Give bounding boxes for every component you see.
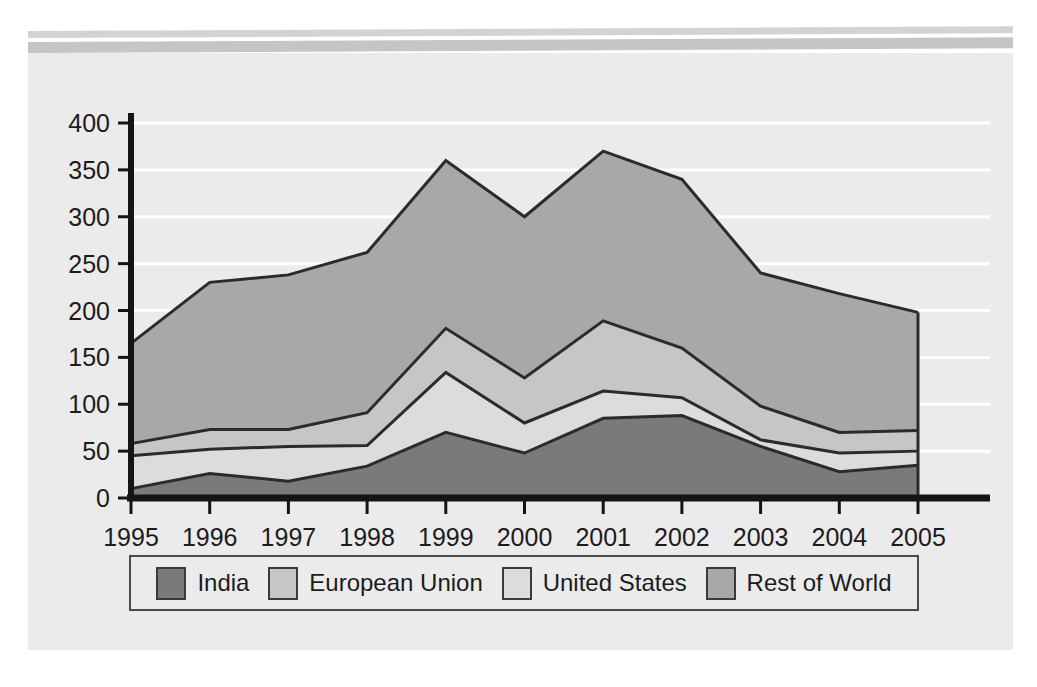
legend-label: India	[197, 569, 249, 597]
y-tick-label: 0	[96, 484, 110, 512]
legend-swatch-icon	[156, 567, 186, 600]
legend-swatch-icon	[268, 567, 298, 600]
legend-label: Rest of World	[747, 569, 892, 597]
legend-item-european-union[interactable]: European Union	[268, 567, 482, 600]
legend-swatch-icon	[706, 567, 736, 600]
legend-label: European Union	[309, 569, 482, 597]
chart-legend: IndiaEuropean UnionUnited StatesRest of …	[129, 555, 919, 611]
chart-page: 0501001502002503003504001995199619971998…	[0, 0, 1037, 687]
legend-item-rest-of-world[interactable]: Rest of World	[706, 567, 892, 600]
x-tick-label: 1999	[418, 523, 474, 551]
legend-item-united-states[interactable]: United States	[502, 567, 687, 600]
x-tick-label: 2000	[497, 523, 553, 551]
x-tick-label: 1998	[339, 523, 395, 551]
y-tick-label: 50	[82, 437, 110, 465]
x-tick-label: 2004	[811, 523, 867, 551]
y-tick-label: 100	[68, 390, 110, 418]
x-tick-label: 1996	[182, 523, 238, 551]
legend-swatch-icon	[502, 567, 532, 600]
y-tick-label: 350	[68, 156, 110, 184]
banner-bar-bottom	[28, 37, 1013, 53]
y-tick-label: 250	[68, 250, 110, 278]
decorative-banner	[28, 31, 1013, 53]
x-tick-label: 1995	[103, 523, 159, 551]
banner-bar-top	[28, 26, 1013, 38]
y-tick-label: 400	[68, 109, 110, 137]
legend-label: United States	[543, 569, 687, 597]
y-tick-label: 150	[68, 343, 110, 371]
x-axis-ticks: 1995199619971998199920002001200220032004…	[103, 501, 946, 551]
x-tick-label: 2001	[575, 523, 631, 551]
y-axis-ticks: 050100150200250300350400	[68, 109, 131, 512]
x-tick-label: 1997	[261, 523, 317, 551]
x-tick-label: 2002	[654, 523, 710, 551]
x-tick-label: 2003	[733, 523, 789, 551]
x-tick-label: 2005	[890, 523, 946, 551]
legend-item-india[interactable]: India	[156, 567, 249, 600]
y-tick-label: 300	[68, 203, 110, 231]
y-tick-label: 200	[68, 297, 110, 325]
chart-card: 0501001502002503003504001995199619971998…	[28, 53, 1013, 650]
